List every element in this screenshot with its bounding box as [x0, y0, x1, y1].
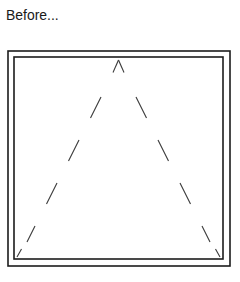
triangle-left-leg-dash-4: [47, 183, 58, 204]
triangle-left-leg-dash-3: [69, 140, 80, 161]
dashed-triangle: [17, 60, 220, 257]
figure-root: Before...: [0, 0, 240, 282]
triangle-right-leg-dash-5: [202, 226, 210, 242]
frame-outer-rect: [8, 51, 230, 266]
triangle-right-leg-dash-3: [158, 140, 169, 161]
triangle-right-leg-dash-4: [180, 183, 191, 204]
triangle-right-leg-dash-6: [216, 249, 221, 257]
triangle-left-leg-dash-6: [17, 249, 22, 257]
triangle-right-leg-dash-2: [136, 97, 147, 118]
triangle-right-leg-dash-1: [119, 60, 125, 73]
triangle-left-leg-dash-1: [113, 60, 119, 73]
diagram-canvas: [0, 0, 240, 282]
triangle-left-leg-dash-2: [91, 97, 102, 118]
triangle-left-leg-dash-5: [27, 226, 35, 242]
frame-group: [8, 51, 230, 266]
frame-inner-rect: [14, 57, 223, 259]
